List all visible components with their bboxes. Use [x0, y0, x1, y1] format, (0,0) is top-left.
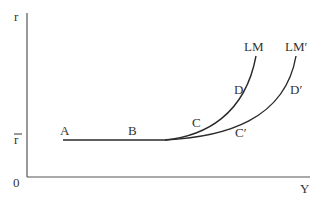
point-c-label: C — [192, 115, 201, 130]
point-d-prime-label: D′ — [290, 82, 302, 97]
point-d-label: D — [234, 82, 243, 97]
point-c-prime-label: C′ — [235, 125, 247, 140]
lm-diagram: r Y 0 r LM LM′ A B C C′ D D′ — [0, 0, 321, 209]
lm-label: LM — [244, 39, 264, 54]
x-axis-label: Y — [300, 181, 310, 196]
rbar-label: r — [14, 132, 22, 147]
point-b-label: B — [128, 123, 137, 138]
y-axis-label: r — [14, 9, 19, 24]
rbar-text: r — [14, 132, 19, 147]
lm-prime-curve — [165, 56, 296, 140]
lm-prime-label: LM′ — [285, 39, 308, 54]
origin-label: 0 — [13, 175, 20, 190]
point-a-label: A — [60, 123, 70, 138]
